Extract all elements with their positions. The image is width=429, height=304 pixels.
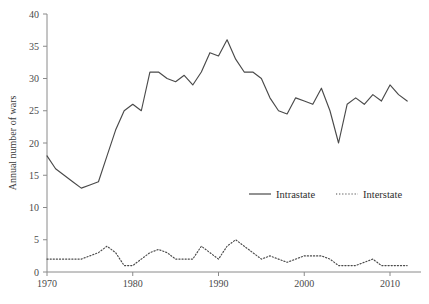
y-tick-label: 20 [29, 138, 39, 149]
legend-label-interstate: Interstate [363, 189, 402, 200]
legend-label-intrastate: Intrastate [276, 189, 315, 200]
line-chart: 0510152025303540 19701980199020002010 In… [0, 0, 429, 304]
x-tick-label: 1970 [37, 278, 57, 289]
x-tick-label: 1980 [123, 278, 143, 289]
chart-container: 0510152025303540 19701980199020002010 In… [0, 0, 429, 304]
data-series-group [47, 40, 407, 266]
chart-legend: IntrastateInterstate [249, 189, 402, 200]
y-tick-label: 10 [29, 202, 39, 213]
y-tick-label: 5 [34, 234, 39, 245]
y-tick-label: 25 [29, 105, 39, 116]
y-axis: 0510152025303540 [29, 9, 47, 278]
x-tick-label: 2000 [294, 278, 314, 289]
x-tick-label: 1990 [209, 278, 229, 289]
y-tick-label: 35 [29, 41, 39, 52]
y-tick-label: 0 [34, 267, 39, 278]
y-tick-label: 40 [29, 9, 39, 20]
series-line-intrastate [47, 40, 407, 188]
series-line-interstate [47, 240, 407, 266]
y-axis-title: Annual number of wars [7, 96, 18, 191]
x-axis: 19701980199020002010 [37, 272, 421, 289]
y-tick-label: 30 [29, 73, 39, 84]
x-tick-label: 2010 [380, 278, 400, 289]
y-tick-label: 15 [29, 170, 39, 181]
